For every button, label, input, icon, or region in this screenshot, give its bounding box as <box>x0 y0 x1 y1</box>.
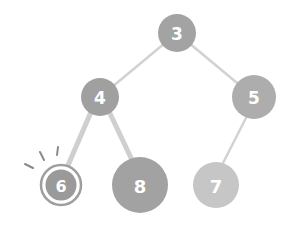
tree-node-3[interactable]: 3 <box>158 14 196 52</box>
node-label-8: 8 <box>134 176 147 197</box>
highlight-marks <box>25 147 58 168</box>
tree-diagram: 3 4 5 6 8 7 <box>0 0 290 230</box>
edge-4-8 <box>106 105 132 160</box>
nodes: 3 4 5 6 8 7 <box>41 14 276 213</box>
tree-node-6-highlighted[interactable]: 6 <box>41 165 81 205</box>
sparkle-mark-3 <box>57 147 58 155</box>
node-label-3: 3 <box>171 24 183 44</box>
edge-4-6 <box>66 105 94 170</box>
tree-node-4[interactable]: 4 <box>81 78 119 116</box>
tree-node-7[interactable]: 7 <box>193 162 239 208</box>
sparkle-mark-1 <box>25 164 33 168</box>
node-label-5: 5 <box>248 88 260 108</box>
sparkle-mark-2 <box>40 152 44 160</box>
node-label-4: 4 <box>94 88 106 108</box>
node-label-6: 6 <box>55 177 66 196</box>
tree-node-5[interactable]: 5 <box>232 75 276 119</box>
tree-node-8[interactable]: 8 <box>112 157 168 213</box>
edge-5-7 <box>222 110 250 165</box>
node-label-7: 7 <box>210 176 223 197</box>
